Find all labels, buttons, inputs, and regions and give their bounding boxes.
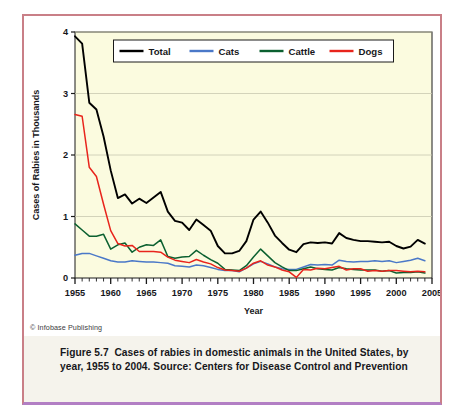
figure-caption-text: Cases of rabies in domestic animals in t… xyxy=(60,347,408,372)
x-tick-label: 1970 xyxy=(172,288,192,298)
figure-number: Figure 5.7 xyxy=(60,347,109,358)
x-tick-label: 1975 xyxy=(208,288,228,298)
chart-plot-area: 0123419551960196519701975198019851990199… xyxy=(24,16,440,336)
x-tick-label: 1985 xyxy=(279,288,299,298)
legend-label-cats: Cats xyxy=(219,46,240,57)
x-tick-label: 1990 xyxy=(315,288,335,298)
x-tick-label: 1995 xyxy=(350,288,370,298)
y-axis-title: Cases of Rabies in Thousands xyxy=(31,90,41,221)
y-tick-label: 2 xyxy=(63,150,68,160)
legend-label-dogs: Dogs xyxy=(359,46,383,57)
x-tick-label: 1960 xyxy=(100,288,120,298)
x-tick-label: 1955 xyxy=(65,288,85,298)
x-tick-label: 2005 xyxy=(422,288,440,298)
y-tick-label: 1 xyxy=(63,212,68,222)
x-axis-title: Year xyxy=(244,306,264,316)
x-tick-label: 1980 xyxy=(243,288,263,298)
figure-card: 0123419551960196519701975198019851990199… xyxy=(22,14,442,405)
figure-caption: Figure 5.7 Cases of rabies in domestic a… xyxy=(60,346,414,373)
chart-panel: 0123419551960196519701975198019851990199… xyxy=(24,16,440,338)
y-tick-label: 3 xyxy=(63,89,68,99)
y-tick-label: 4 xyxy=(63,27,69,37)
legend-label-cattle: Cattle xyxy=(289,46,316,57)
legend-label-total: Total xyxy=(149,46,171,57)
x-tick-label: 2000 xyxy=(386,288,406,298)
caption-panel: Figure 5.7 Cases of rabies in domestic a… xyxy=(24,336,440,402)
rabies-line-chart: 0123419551960196519701975198019851990199… xyxy=(24,16,440,336)
x-tick-label: 1965 xyxy=(136,288,156,298)
y-tick-label: 0 xyxy=(63,273,68,283)
copyright-notice: © Infobase Publishing xyxy=(30,323,102,332)
